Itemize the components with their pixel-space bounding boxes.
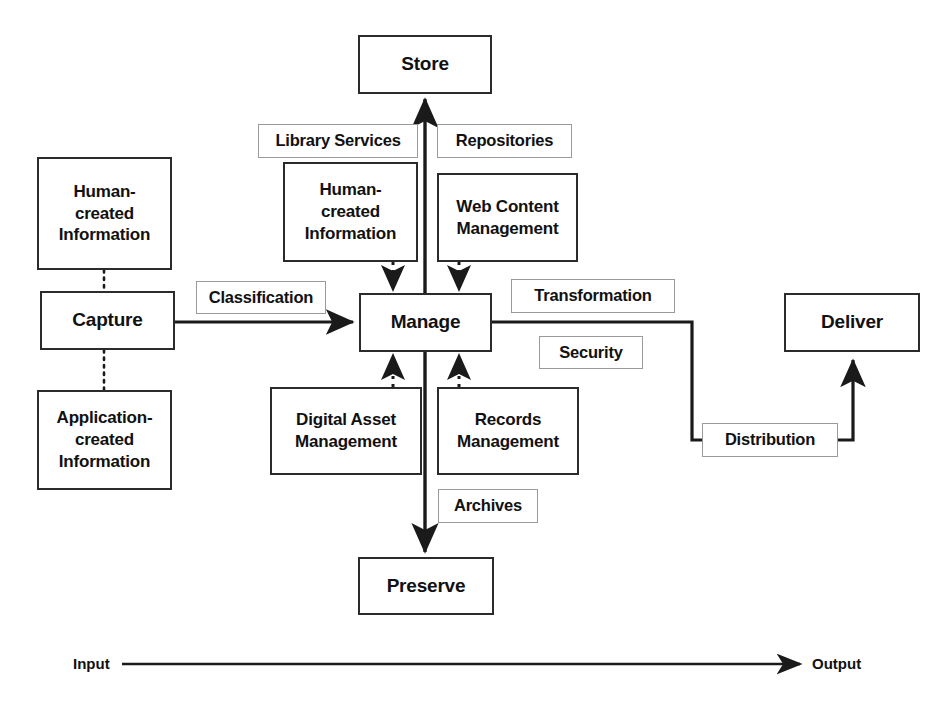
flow-axis-output-label: Output (812, 655, 861, 672)
node-capture[interactable]: Capture (40, 291, 175, 350)
node-digital-asset-management[interactable]: Digital Asset Management (270, 387, 422, 475)
tag-security[interactable]: Security (539, 336, 643, 369)
tag-repositories[interactable]: Repositories (437, 124, 572, 158)
node-manage[interactable]: Manage (359, 293, 492, 352)
node-preserve[interactable]: Preserve (358, 557, 494, 615)
node-store[interactable]: Store (358, 35, 492, 94)
node-application-created-information-left[interactable]: Application- created Information (37, 390, 172, 490)
node-web-content-management[interactable]: Web Content Management (437, 173, 578, 262)
tag-transformation[interactable]: Transformation (511, 279, 675, 313)
tag-classification[interactable]: Classification (196, 281, 326, 314)
node-deliver[interactable]: Deliver (784, 293, 920, 352)
diagram-canvas: Store Capture Manage Deliver Preserve Hu… (0, 0, 952, 707)
node-records-management[interactable]: Records Management (437, 387, 579, 475)
tag-distribution[interactable]: Distribution (702, 423, 838, 457)
flow-axis-input-label: Input (73, 655, 110, 672)
tag-library-services[interactable]: Library Services (258, 124, 418, 158)
node-human-created-information-left[interactable]: Human- created Information (37, 157, 172, 270)
tag-archives[interactable]: Archives (438, 489, 538, 523)
node-human-created-information-manage[interactable]: Human- created Information (283, 162, 418, 262)
